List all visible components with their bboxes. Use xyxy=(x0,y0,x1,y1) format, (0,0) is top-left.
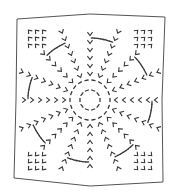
chevron-mark xyxy=(114,36,119,40)
dash-mark xyxy=(92,109,95,110)
chevron-mark xyxy=(26,124,30,129)
dash-mark xyxy=(85,119,88,120)
dash-mark xyxy=(68,158,71,159)
chevron-mark xyxy=(42,152,46,156)
chevron-mark xyxy=(141,37,145,41)
chevron-mark xyxy=(107,51,112,55)
dash-mark xyxy=(92,90,95,91)
chevron-mark xyxy=(28,37,32,41)
chevron-mark xyxy=(107,117,111,121)
chevron-mark xyxy=(157,69,161,74)
dash-mark xyxy=(74,112,76,115)
chevron-mark xyxy=(30,97,33,102)
chevron-mark xyxy=(52,62,56,66)
chevron-mark xyxy=(28,152,32,156)
dash-mark xyxy=(115,156,118,157)
chevron-mark xyxy=(59,29,64,33)
chevron-mark xyxy=(136,50,140,54)
chevron-mark xyxy=(35,159,39,163)
chevron-mark xyxy=(87,140,92,143)
chevron-mark xyxy=(41,117,45,122)
chevron-mark xyxy=(87,156,92,159)
chevron-mark xyxy=(117,29,122,33)
chevron-mark xyxy=(134,159,138,163)
chevron-mark xyxy=(62,97,65,102)
dash-mark xyxy=(104,112,106,115)
dash-mark xyxy=(108,105,109,108)
chevron-mark xyxy=(127,81,131,86)
chevron-mark xyxy=(40,146,44,150)
chevron-mark xyxy=(38,97,41,102)
dash-mark xyxy=(99,117,102,119)
chevron-mark xyxy=(148,30,152,34)
chevron-mark xyxy=(114,160,119,164)
chevron-mark xyxy=(63,108,67,113)
chevron-mark xyxy=(62,36,67,40)
chevron-mark xyxy=(77,73,82,77)
chevron-mark xyxy=(127,114,131,119)
chevron-mark xyxy=(63,87,67,92)
chevron-mark xyxy=(98,123,103,127)
chevron-mark xyxy=(124,62,128,66)
pattern-frame xyxy=(14,14,165,186)
chevron-mark xyxy=(124,134,128,138)
chevron-mark xyxy=(87,64,92,67)
stitch-marks xyxy=(19,29,161,171)
chevron-mark xyxy=(63,73,67,77)
chevron-mark xyxy=(74,130,79,134)
chevron-mark xyxy=(42,44,46,48)
chevron-mark xyxy=(77,123,82,127)
chevron-mark xyxy=(136,146,140,150)
chevron-mark xyxy=(41,78,45,83)
chevron-mark xyxy=(63,123,67,127)
chevron-mark xyxy=(134,37,138,41)
chevron-mark xyxy=(148,159,152,163)
chevron-mark xyxy=(134,30,138,34)
dash-mark xyxy=(97,93,99,96)
chevron-mark xyxy=(46,140,50,144)
chevron-mark xyxy=(87,56,92,59)
chevron-mark xyxy=(40,50,44,54)
chevron-mark xyxy=(87,124,92,127)
chevron-mark xyxy=(28,159,32,163)
chevron-mark xyxy=(35,166,39,170)
chevron-mark xyxy=(141,44,145,48)
dash-mark xyxy=(148,120,149,123)
chevron-mark xyxy=(71,137,76,141)
chevron-mark xyxy=(28,44,32,48)
chevron-mark xyxy=(65,44,70,48)
chevron-mark xyxy=(141,159,145,163)
chevron-mark xyxy=(114,97,117,102)
chevron-mark xyxy=(113,87,117,92)
chevron-mark xyxy=(71,59,76,63)
chevron-mark xyxy=(122,97,125,102)
chevron-mark xyxy=(34,75,38,80)
chevron-mark xyxy=(19,127,23,132)
chevron-mark xyxy=(101,130,106,134)
dash-mark xyxy=(79,82,82,84)
chevron-mark xyxy=(120,84,124,89)
stitch-pattern-drawing xyxy=(0,0,179,192)
chevron-mark xyxy=(57,67,61,71)
dash-mark xyxy=(81,105,83,108)
chevron-mark xyxy=(87,72,92,75)
chevron-mark xyxy=(150,72,154,77)
chevron-mark xyxy=(69,117,73,121)
chevron-mark xyxy=(28,166,32,170)
chevron-mark xyxy=(138,97,141,102)
chevron-mark xyxy=(150,124,154,129)
chevron-mark xyxy=(141,30,145,34)
chevron-mark xyxy=(42,30,46,34)
chevron-mark xyxy=(113,108,117,113)
dash-mark xyxy=(85,80,88,81)
chevron-mark xyxy=(101,66,106,70)
chevron-mark xyxy=(107,79,111,83)
chevron-mark xyxy=(141,166,145,170)
chevron-mark xyxy=(120,111,124,116)
chevron-mark xyxy=(134,152,138,156)
chevron-mark xyxy=(68,51,73,55)
chevron-mark xyxy=(74,66,79,70)
chevron-mark xyxy=(42,166,46,170)
chevron-mark xyxy=(130,97,133,102)
chevron-mark xyxy=(148,37,152,41)
